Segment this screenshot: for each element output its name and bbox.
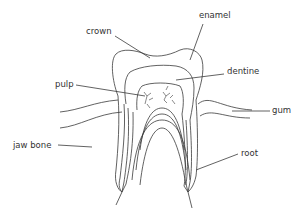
label-root: root [241,149,258,158]
enamel-leader [190,24,203,60]
gum-left [60,100,122,128]
root-inner-arch-3 [132,120,190,180]
dentine-leader [176,74,224,80]
tooth-diagram: crown enamel dentine pulp gum jaw bone r… [0,0,304,210]
label-enamel: enamel [199,11,231,20]
root-leader [196,154,238,170]
root-inner-arch-4 [140,128,186,185]
label-crown: crown [86,27,112,36]
label-jaw-bone: jaw bone [13,141,51,150]
pulp-leader [76,85,145,96]
pulp-chamber [137,83,184,114]
pulp-nerves [144,86,175,108]
label-dentine: dentine [227,67,259,76]
dentine-outline [125,65,194,120]
gum-right [198,100,252,118]
label-gum: gum [272,106,291,115]
jaw-bone-leader [58,145,92,147]
label-pulp: pulp [55,80,74,89]
enamel-outline [112,49,203,100]
tooth-illustration [0,0,304,210]
crown-leader [115,36,150,58]
